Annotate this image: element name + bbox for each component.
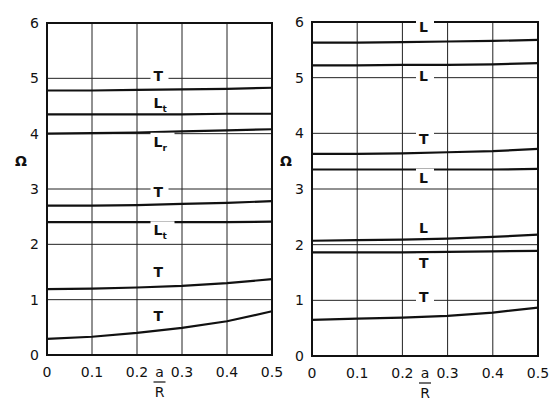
x-tick-label: 0.4 <box>216 364 238 380</box>
x-tick-label: 0.3 <box>436 365 458 381</box>
series-label: T <box>419 255 429 271</box>
y-tick-label: 0 <box>295 348 304 364</box>
series-label: T <box>419 289 429 305</box>
series-label: T <box>154 308 164 324</box>
series-label-subscript: t <box>162 231 167 241</box>
series-line-L <box>312 63 538 65</box>
y-tick-label: 6 <box>30 15 39 31</box>
right-panel: 00.10.20.30.40.50123456ΩaRLLTLLTT <box>280 14 549 401</box>
series-line-L_t <box>47 114 272 115</box>
x-tick-label: 0.1 <box>346 365 368 381</box>
series-line-T <box>312 149 538 154</box>
series-label: L <box>419 68 428 84</box>
x-axis-label-denominator: R <box>420 385 430 401</box>
series-line-T <box>47 279 272 289</box>
y-tick-label: 5 <box>295 70 304 86</box>
series-label: L <box>419 220 428 236</box>
chart-canvas: 00.10.20.30.40.50123456ΩaRTLtLrTLtTT 00.… <box>0 0 549 410</box>
x-axis-label-numerator: a <box>421 365 430 381</box>
x-tick-label: 0 <box>43 364 52 380</box>
y-tick-label: 4 <box>30 126 39 142</box>
series-label-subscript: r <box>162 143 167 153</box>
series-label: T <box>154 68 164 84</box>
series-line-T <box>47 88 272 91</box>
series-label: T <box>154 184 164 200</box>
x-axis-label-denominator: R <box>155 384 165 400</box>
series-label: T <box>154 264 164 280</box>
y-axis-label: Ω <box>15 153 27 169</box>
x-axis-label-numerator: a <box>155 364 164 380</box>
x-tick-label: 0.5 <box>261 364 283 380</box>
series-line-T <box>312 308 538 320</box>
y-tick-label: 1 <box>295 292 304 308</box>
x-tick-label: 0.1 <box>81 364 103 380</box>
series-label: L <box>419 170 428 186</box>
x-tick-label: 0.2 <box>391 365 413 381</box>
y-tick-label: 0 <box>30 347 39 363</box>
x-tick-label: 0 <box>308 365 317 381</box>
y-tick-label: 2 <box>30 236 39 252</box>
y-tick-label: 6 <box>295 14 304 30</box>
y-tick-label: 2 <box>295 237 304 253</box>
figure: 00.10.20.30.40.50123456ΩaRTLtLrTLtTT 00.… <box>0 0 549 410</box>
left-panel: 00.10.20.30.40.50123456ΩaRTLtLrTLtTT <box>15 15 283 400</box>
x-tick-label: 0.3 <box>171 364 193 380</box>
series-line-T <box>47 201 272 205</box>
x-tick-label: 0.2 <box>126 364 148 380</box>
series-line-L <box>312 40 538 43</box>
y-tick-label: 3 <box>30 181 39 197</box>
y-tick-label: 4 <box>295 125 304 141</box>
y-axis-label: Ω <box>280 153 292 169</box>
series-label-subscript: t <box>162 104 167 114</box>
y-tick-label: 5 <box>30 70 39 86</box>
series-line-T <box>312 251 538 253</box>
series-label: L <box>419 19 428 35</box>
y-tick-label: 1 <box>30 292 39 308</box>
series-label: T <box>419 131 429 147</box>
x-tick-label: 0.4 <box>482 365 504 381</box>
y-tick-label: 3 <box>295 181 304 197</box>
x-tick-label: 0.5 <box>527 365 549 381</box>
